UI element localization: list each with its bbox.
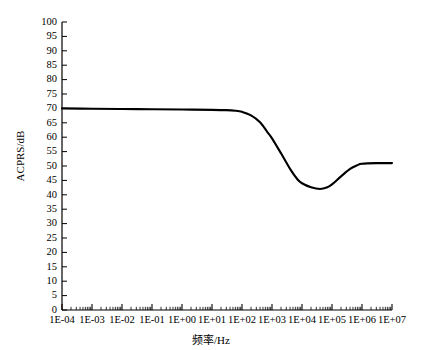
- axis-lines: [62, 22, 392, 310]
- x-tick-marks: [62, 304, 392, 310]
- y-tick-marks: [62, 22, 67, 310]
- chart-figure: ACPRS/dB 100 95 90 85 80 75 70 65 60 55 …: [0, 0, 422, 350]
- data-series-line: [62, 108, 392, 189]
- plot-area: [0, 0, 422, 350]
